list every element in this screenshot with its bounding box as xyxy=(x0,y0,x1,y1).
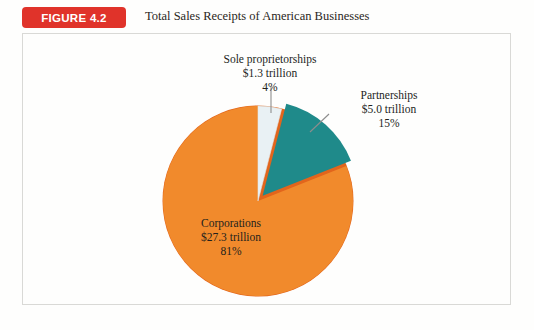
figure-container: FIGURE 4.2 Total Sales Receipts of Ameri… xyxy=(0,0,534,330)
figure-number-badge: FIGURE 4.2 xyxy=(22,7,126,28)
figure-header: FIGURE 4.2 Total Sales Receipts of Ameri… xyxy=(0,0,534,34)
figure-title: Total Sales Receipts of American Busines… xyxy=(145,9,369,24)
figure-number-label: FIGURE 4.2 xyxy=(41,12,107,24)
figure-panel xyxy=(22,33,511,305)
